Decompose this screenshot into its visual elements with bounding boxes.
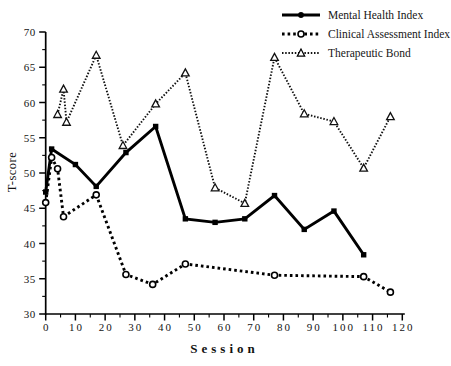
legend-item-clinical-assessment-index: Clinical Assessment Index xyxy=(281,24,450,43)
y-axis-title: T-score xyxy=(5,149,19,195)
figure: 3035404550556065700102030405060708090100… xyxy=(0,0,451,366)
svg-text:65: 65 xyxy=(24,61,36,73)
legend: Mental Health Index Clinical Assessment … xyxy=(281,5,450,62)
svg-text:100: 100 xyxy=(333,321,356,333)
svg-text:30: 30 xyxy=(128,321,143,333)
svg-text:10: 10 xyxy=(69,321,84,333)
svg-text:35: 35 xyxy=(24,273,36,285)
legend-label: Therapeutic Bond xyxy=(328,46,411,60)
open-circle-marker-icon xyxy=(298,31,304,37)
svg-text:55: 55 xyxy=(24,132,36,144)
svg-text:45: 45 xyxy=(24,202,36,214)
solid-line-sample-icon xyxy=(281,8,321,22)
filled-dot-marker-icon xyxy=(298,12,304,18)
svg-text:60: 60 xyxy=(218,321,233,333)
svg-text:20: 20 xyxy=(99,321,114,333)
fine-dotted-line-sample-icon xyxy=(281,46,321,60)
svg-text:60: 60 xyxy=(24,97,36,109)
svg-text:30: 30 xyxy=(24,308,36,320)
svg-text:40: 40 xyxy=(158,321,173,333)
svg-text:80: 80 xyxy=(277,321,292,333)
svg-text:0: 0 xyxy=(43,321,51,333)
svg-text:90: 90 xyxy=(307,321,322,333)
dotted-line-sample-icon xyxy=(281,27,321,41)
svg-text:40: 40 xyxy=(24,238,36,250)
svg-text:120: 120 xyxy=(392,321,415,333)
legend-label: Mental Health Index xyxy=(328,8,423,22)
svg-text:110: 110 xyxy=(363,321,385,333)
legend-item-mental-health-index: Mental Health Index xyxy=(281,5,450,24)
legend-item-therapeutic-bond: Therapeutic Bond xyxy=(281,43,450,62)
svg-text:50: 50 xyxy=(188,321,203,333)
svg-text:50: 50 xyxy=(24,167,36,179)
svg-text:70: 70 xyxy=(247,321,262,333)
legend-label: Clinical Assessment Index xyxy=(328,27,450,41)
svg-text:70: 70 xyxy=(24,26,36,38)
x-axis-title: Session xyxy=(0,341,449,357)
